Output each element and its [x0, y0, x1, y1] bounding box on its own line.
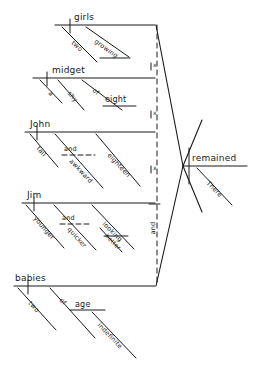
word-john: John	[30, 120, 50, 129]
word-remained: remained	[192, 154, 236, 163]
compound-marker-x3: x	[153, 165, 157, 171]
converge-line-bottom	[156, 166, 183, 286]
converge-line-top	[156, 25, 183, 166]
word-and-1: and	[64, 146, 77, 153]
word-age: age	[75, 301, 91, 309]
sentence-diagram: girls two growing midget a shy of eight …	[0, 0, 255, 384]
compound-marker-x2: x	[153, 110, 157, 116]
converge-line-lower-tail	[183, 166, 202, 212]
word-girls: girls	[74, 13, 94, 22]
word-eight: eight	[105, 96, 126, 104]
word-midget: midget	[52, 66, 85, 75]
word-and-vertical: and	[150, 222, 157, 235]
word-babies: babies	[15, 274, 46, 283]
prep-slant-of-b	[50, 288, 95, 338]
modifier-slant-awkward	[55, 134, 103, 188]
compound-marker-x1: x	[153, 62, 157, 68]
word-jim: Jim	[27, 191, 42, 200]
word-and-2: and	[62, 215, 75, 222]
